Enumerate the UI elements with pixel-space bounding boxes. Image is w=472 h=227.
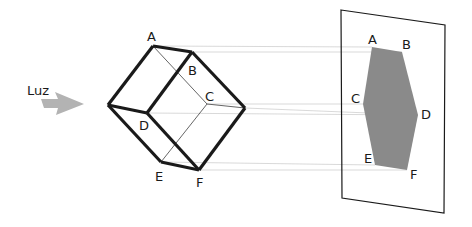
light-label: Luz	[27, 83, 49, 98]
cube-label-b: B	[188, 63, 197, 78]
shadow-label-f: F	[410, 167, 417, 182]
shadow-label-e: E	[364, 151, 372, 166]
cube-label-e: E	[155, 169, 163, 184]
shadow-label-b: B	[402, 37, 411, 52]
shadow-label-d: D	[421, 107, 431, 122]
cube-label-a: A	[147, 29, 156, 44]
cube-label-c: C	[205, 89, 214, 104]
shadow-label-a: A	[368, 32, 377, 47]
cube-edges	[108, 46, 245, 170]
cube-label-d: D	[139, 118, 149, 133]
cube-label-f: F	[196, 175, 203, 190]
cube-projection-diagram: Luz A B C D E F A B C D E F	[0, 0, 472, 227]
shadow-label-c: C	[351, 91, 360, 106]
